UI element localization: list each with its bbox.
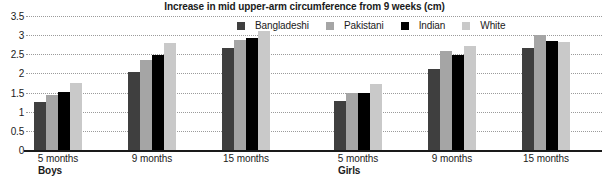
plot-area — [26, 16, 602, 150]
legend-label: Indian — [419, 20, 446, 31]
legend-item-bangladeshi: Bangladeshi — [237, 20, 309, 31]
x-axis-category-label: 5 months — [38, 153, 78, 164]
x-axis-category-label: 9 months — [132, 153, 172, 164]
x-axis-category-label: 5 months — [338, 153, 378, 164]
legend-item-indian: Indian — [401, 20, 446, 31]
category-labels: 5 months9 months15 monthsBoys5 months9 m… — [26, 153, 602, 185]
bar — [440, 51, 452, 150]
bar — [234, 40, 246, 150]
bar — [246, 38, 258, 150]
bar — [346, 93, 358, 150]
bar — [140, 60, 152, 150]
y-axis-tick-label: 2 — [2, 68, 24, 79]
y-axis: 00.511.522.533.5 — [0, 16, 24, 150]
legend-label: White — [480, 20, 505, 31]
legend-label: Pakistani — [344, 20, 384, 31]
bar — [128, 72, 140, 150]
y-axis-tick-label: 1 — [2, 106, 24, 117]
bar — [370, 84, 382, 150]
bars-layer — [26, 16, 602, 150]
bar — [334, 101, 346, 150]
y-axis-tick-label: 0 — [2, 145, 24, 156]
panel-label-girls: Girls — [338, 165, 360, 176]
panel-label-boys: Boys — [38, 165, 62, 176]
legend-swatch-icon — [401, 22, 409, 30]
y-axis-tick-label: 0.5 — [2, 125, 24, 136]
legend-label: Bangladeshi — [255, 20, 309, 31]
bar — [34, 102, 46, 150]
bar — [152, 55, 164, 150]
bar — [46, 95, 58, 151]
x-axis-baseline — [24, 150, 602, 152]
legend-item-white: White — [462, 20, 505, 31]
bar — [164, 43, 176, 150]
bar — [558, 42, 570, 150]
bar — [546, 41, 558, 150]
y-axis-tick-label: 2.5 — [2, 49, 24, 60]
bar — [428, 69, 440, 150]
x-axis-category-label: 15 months — [223, 153, 269, 164]
bar — [464, 46, 476, 150]
legend-swatch-icon — [237, 22, 245, 30]
bar-chart: Increase in mid upper-arm circumference … — [0, 0, 609, 185]
bar — [522, 48, 534, 150]
bar — [222, 48, 234, 150]
y-axis-tick-label: 3.5 — [2, 11, 24, 22]
y-axis-tick-label: 1.5 — [2, 87, 24, 98]
legend-swatch-icon — [462, 22, 470, 30]
chart-legend: BangladeshiPakistaniIndianWhite — [237, 20, 505, 31]
bar — [534, 35, 546, 150]
bar — [58, 92, 70, 150]
x-axis-category-label: 9 months — [432, 153, 472, 164]
bar — [358, 93, 370, 150]
chart-title: Increase in mid upper-arm circumference … — [0, 1, 609, 12]
legend-swatch-icon — [326, 22, 334, 30]
y-axis-tick-label: 3 — [2, 30, 24, 41]
legend-item-pakistani: Pakistani — [326, 20, 384, 31]
bar — [70, 83, 82, 150]
bar — [452, 55, 464, 150]
bar — [258, 31, 270, 150]
x-axis-category-label: 15 months — [523, 153, 569, 164]
